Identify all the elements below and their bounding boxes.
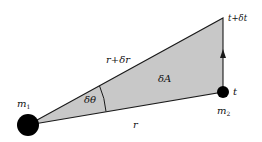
label-r-plus-dr: r+δr (106, 54, 131, 65)
label-r: r (133, 119, 139, 130)
label-t-plus-dt: t+δt (228, 13, 248, 23)
label-m2: m2 (217, 105, 230, 117)
mass-m1 (17, 114, 39, 136)
kepler-sector-diagram: m1 m2 t t+δt r+δr δA δθ r (0, 0, 262, 142)
label-dtheta: δθ (84, 94, 96, 105)
label-m1: m1 (17, 98, 30, 110)
mass-m2 (217, 86, 229, 98)
label-dA: δA (158, 73, 171, 84)
swept-area-sector (28, 18, 223, 125)
label-t: t (233, 86, 238, 97)
